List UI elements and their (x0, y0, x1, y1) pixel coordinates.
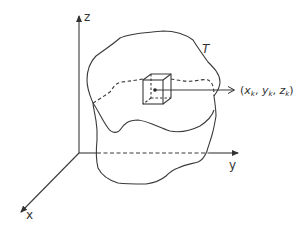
region-t (87, 31, 220, 184)
y-axis-label: y (229, 158, 236, 172)
box-edge-top-right (163, 74, 171, 80)
volume-element-box (143, 74, 171, 104)
z-axis-label: z (84, 10, 90, 24)
box-hidden-edges (143, 74, 171, 104)
box-front-face (143, 80, 163, 104)
x-axis (21, 153, 79, 212)
triple-integral-diagram: z y x T (xk, yk, zk) (0, 0, 305, 228)
box-top-right-edges (143, 74, 171, 104)
x-axis-label: x (26, 208, 33, 222)
cross-section-back-edge (93, 79, 214, 103)
region-label: T (202, 42, 211, 56)
sample-point-label: (xk, yk, zk) (240, 84, 294, 98)
cross-section-front-edge (93, 103, 214, 132)
region-outer-boundary (87, 31, 220, 184)
